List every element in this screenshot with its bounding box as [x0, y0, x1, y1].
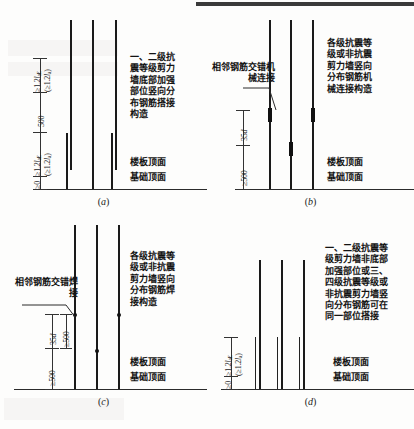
- panel-a-dim-lower-lap: ≥1.2laE: [33, 155, 42, 176]
- panel-a-caption-close: ): [106, 196, 109, 207]
- panel-c-description: 各级抗震等级或非抗震剪力墙竖向分布钢筋焊接构造: [130, 251, 183, 308]
- panel-c-caption: (c): [0, 396, 207, 407]
- panel-a-dim-upper-lap-paren: (≥1.2la): [43, 69, 52, 92]
- panel-c-dim-first-height: ≥500: [48, 370, 57, 386]
- panel-a-rebar-upper-3: [115, 20, 117, 170]
- panel-b-foundation-surface-label: 基础顶面: [327, 171, 363, 183]
- panel-c-dim-tick-o2: [45, 348, 59, 349]
- panel-d-dim-tick-3: [224, 389, 238, 390]
- panel-a-foundation-surface-label: 基础顶面: [130, 171, 166, 183]
- panel-a-dim-stagger: 500: [37, 116, 46, 127]
- panel-c-callout-leader: [22, 301, 82, 341]
- panel-d-dim-tick-1: [224, 337, 238, 338]
- panel-a-dim-base-offset: ≥0: [33, 181, 42, 189]
- panel-a-dim-tick-3: [33, 132, 47, 133]
- panel-c-callout: 相邻钢筋交错焊接: [8, 277, 78, 300]
- panel-b-dim-first-height: ≥500: [240, 170, 249, 186]
- panel-c-caption-close: ): [106, 396, 109, 407]
- panel-a-baseline: [40, 189, 207, 190]
- panel-c-rebar-2: [96, 225, 98, 389]
- panel-b-caption: (b): [207, 196, 414, 207]
- panel-b-dim-tick-3: [236, 189, 250, 190]
- panel-a-description: 一、二级抗震等级剪力墙底部加强部位竖向分布钢筋搭接构造: [130, 52, 183, 120]
- panel-a-rebar-upper-2: [92, 20, 94, 92]
- panel-b-coupler-2: [289, 142, 293, 156]
- panel-a-dim-tick-1: [33, 58, 47, 59]
- panel-d-rebar-upper-2: [281, 260, 283, 389]
- panel-b-dim-tick-2: [236, 145, 250, 146]
- panel-b-dim-stagger: 35d: [240, 130, 249, 141]
- panel-b-caption-close: ): [313, 196, 316, 207]
- panel-a-rebar-lower-3: [111, 133, 113, 189]
- panel-c-slab-surface-label: 楼板顶面: [130, 356, 166, 368]
- panel-a-dim-upper-lap: ≥1.2laE: [33, 71, 42, 92]
- panel-a-dim-tick-5: [33, 189, 47, 190]
- panel-c-baseline: [14, 389, 207, 390]
- panel-d-dim-lap: ≥1.2laE: [224, 355, 233, 376]
- panel-a-rebar-lower-2: [92, 88, 94, 189]
- panel-d-caption: (d): [207, 396, 414, 407]
- panel-a: ≥1.2laE (≥1.2la) 500 ≥1.2laE (≥1.2la) ≥0…: [0, 0, 207, 214]
- panel-b-callout: 相邻钢筋交错机械连接: [205, 62, 275, 85]
- panel-a-caption: (a): [0, 196, 207, 207]
- panel-d-dim-tick-2: [224, 376, 238, 377]
- panel-b-slab-surface-label: 楼板顶面: [327, 156, 363, 168]
- panel-d-foundation-surface-label: 基础顶面: [333, 371, 369, 383]
- panel-d-rebar-lower-3: [299, 337, 300, 389]
- panel-d-dim-base-offset: ≥0: [224, 381, 233, 389]
- panel-d-rebar-upper-1: [259, 260, 261, 389]
- panel-a-dim-tick-2: [33, 92, 47, 93]
- panel-c-foundation-surface-label: 基础顶面: [130, 371, 166, 383]
- panel-b-description: 各级抗震等级或非抗震剪力墙竖向分布钢筋机械连接构造: [327, 38, 380, 95]
- panel-b: 35d ≥500 相邻钢筋交错机械连接 各级抗震等级或非抗震剪力墙竖向分布钢筋机…: [207, 0, 414, 214]
- panel-a-dim-lower-lap-paren: (≥1.2la): [43, 153, 52, 176]
- figure-grid: ≥1.2laE (≥1.2la) 500 ≥1.2laE (≥1.2la) ≥0…: [0, 0, 414, 429]
- panel-c-dim-tick-i2: [60, 348, 72, 349]
- panel-d-rebar-upper-3: [303, 260, 305, 389]
- panel-c: 35d ≥500 ≥500 相邻钢筋交错焊接 各级抗震等级或非抗震剪力墙竖向分布…: [0, 215, 207, 429]
- panel-d-rebar-lower-1: [255, 337, 256, 389]
- panel-c-dim-tick-o3: [45, 389, 59, 390]
- panel-c-weld-2: [95, 349, 99, 353]
- panel-a-dim-tick-4: [33, 176, 47, 177]
- panel-b-baseline: [235, 189, 414, 190]
- panel-d: ≥1.2laE (≥1.2la) ≥0 一、二级抗震等级剪力墙非底部加强部位或三…: [207, 215, 414, 429]
- panel-a-rebar-upper-1: [70, 20, 72, 170]
- panel-a-slab-surface-label: 楼板顶面: [130, 156, 166, 168]
- panel-b-callout-leader: [243, 84, 313, 124]
- panel-d-rebar-lower-2: [277, 337, 278, 389]
- panel-a-rebar-lower-1: [66, 133, 68, 189]
- panel-c-rebar-3: [118, 225, 120, 389]
- panel-d-baseline: [221, 389, 414, 390]
- panel-c-weld-3: [117, 313, 121, 317]
- panel-d-slab-surface-label: 楼板顶面: [333, 356, 369, 368]
- panel-d-description: 一、二级抗震等级剪力墙非底部加强部位或三、四级抗震等级或非抗震剪力墙竖向分布钢筋…: [325, 243, 389, 323]
- panel-d-caption-close: ): [313, 396, 316, 407]
- panel-d-dim-lap-paren: (≥1.2la): [234, 353, 243, 376]
